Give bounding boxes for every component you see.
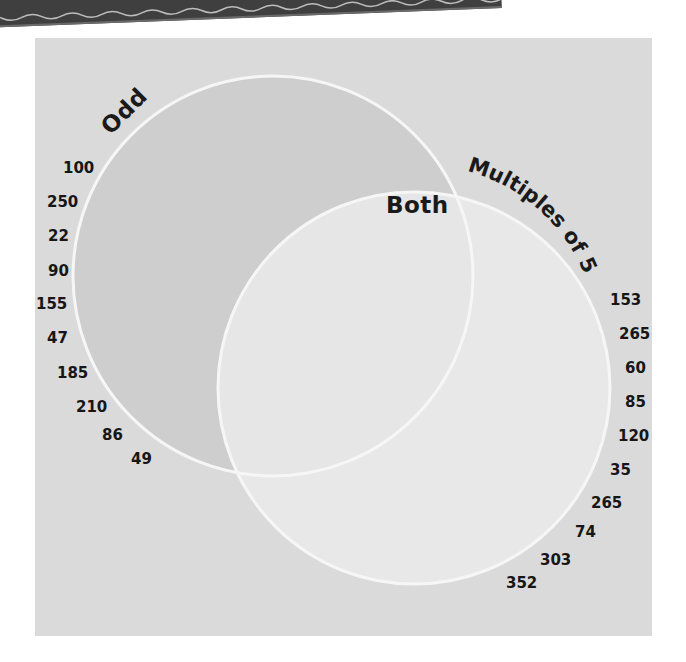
- multiples-of-5-number: 85: [625, 394, 646, 410]
- odd-number: 250: [47, 194, 78, 210]
- multiples-of-5-number: 265: [619, 326, 650, 342]
- svg-text:Multiples of 5: Multiples of 5: [465, 153, 601, 277]
- multiples-of-5-number: 60: [625, 360, 646, 376]
- odd-number: 47: [47, 330, 68, 346]
- odd-number: 155: [36, 296, 67, 312]
- multiples-of-5-number: 265: [591, 495, 622, 511]
- multiples-of-5-number: 303: [540, 552, 571, 568]
- odd-number: 90: [48, 263, 69, 279]
- header-banner: counted by ...: [0, 0, 502, 28]
- odd-number: 49: [131, 451, 152, 467]
- venn-diagram-panel: Odd Multiples of 5 Both 100 250 22 90 15…: [35, 38, 652, 636]
- odd-number: 86: [102, 427, 123, 443]
- multiples-of-5-set-label: Multiples of 5: [35, 38, 652, 636]
- odd-number: 100: [63, 160, 94, 176]
- intersection-both-label: Both: [386, 192, 449, 218]
- banner-wave-border: [0, 0, 502, 24]
- multiples-of-5-number: 35: [610, 462, 631, 478]
- multiples-of-5-number: 74: [575, 524, 596, 540]
- odd-number: 210: [76, 399, 107, 415]
- odd-number: 185: [57, 365, 88, 381]
- multiples-of-5-number: 153: [610, 292, 641, 308]
- multiples-of-5-number: 120: [618, 428, 649, 444]
- multiples-of-5-label-text: Multiples of 5: [465, 153, 601, 277]
- odd-number: 22: [48, 228, 69, 244]
- multiples-of-5-number: 352: [506, 575, 537, 591]
